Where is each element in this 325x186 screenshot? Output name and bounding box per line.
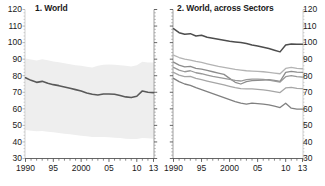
x-tick-label-p1-2005: 05 <box>95 164 123 173</box>
x-tick-label-p1-1990: 1990 <box>12 164 40 173</box>
x-tick-label-p2-1995: 95 <box>188 164 216 173</box>
x-tick-label-p2-2000: 2000 <box>216 164 244 173</box>
figure-root: 1. World 2. World, across Sectors 304050… <box>0 0 325 186</box>
x-tick-label-p1-2000: 2000 <box>67 164 95 173</box>
x-tick-label-p2-1990: 1990 <box>160 164 188 173</box>
x-tick-label-p2-2005: 05 <box>244 164 272 173</box>
x-tick-label-p2-2013: 13 <box>289 164 317 173</box>
x-axis-labels: 19909520000510131990952000051013 <box>0 0 325 186</box>
x-tick-label-p1-1995: 95 <box>39 164 67 173</box>
